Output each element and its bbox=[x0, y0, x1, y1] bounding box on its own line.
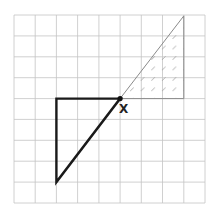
grid-diagram bbox=[0, 0, 218, 214]
shaded-triangle bbox=[120, 16, 184, 99]
point-x-marker bbox=[118, 96, 123, 101]
point-x-label: X bbox=[119, 102, 128, 116]
